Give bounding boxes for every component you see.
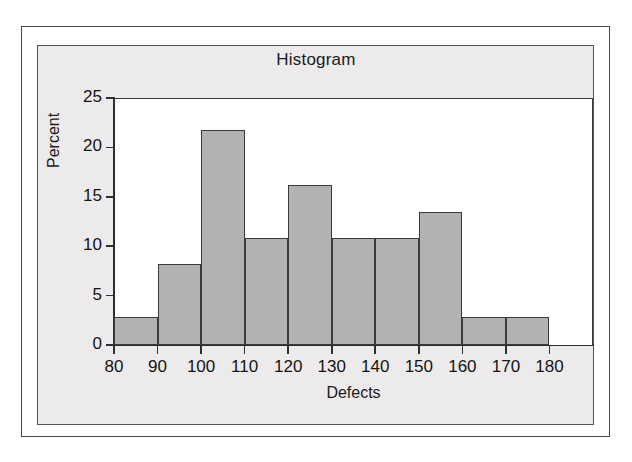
histogram-bar bbox=[332, 238, 376, 345]
bar-series bbox=[114, 98, 593, 345]
y-tick-label: 0 bbox=[40, 334, 102, 354]
y-tick-mark bbox=[106, 147, 114, 149]
x-tick-mark bbox=[200, 345, 202, 354]
x-tick-mark bbox=[287, 345, 289, 354]
y-tick-mark bbox=[106, 97, 114, 99]
y-tick-label: 15 bbox=[40, 186, 102, 206]
x-tick-mark bbox=[462, 345, 464, 354]
x-tick-label: 180 bbox=[519, 357, 579, 377]
histogram-bar bbox=[506, 317, 550, 345]
histogram-bar bbox=[419, 212, 463, 345]
x-tick-mark bbox=[157, 345, 159, 354]
histogram-bar bbox=[114, 317, 158, 345]
histogram-bar bbox=[375, 238, 419, 345]
x-tick-mark bbox=[418, 345, 420, 354]
x-tick-mark bbox=[244, 345, 246, 354]
histogram-bar bbox=[462, 317, 506, 345]
histogram-bar bbox=[158, 264, 202, 345]
x-tick-mark bbox=[374, 345, 376, 354]
x-tick-mark bbox=[113, 345, 115, 354]
chart-title: Histogram bbox=[0, 50, 632, 70]
x-tick-mark bbox=[505, 345, 507, 354]
y-tick-label: 25 bbox=[40, 87, 102, 107]
y-tick-label: 5 bbox=[40, 285, 102, 305]
y-tick-mark bbox=[106, 295, 114, 297]
x-tick-mark bbox=[331, 345, 333, 354]
histogram-figure: Histogram 0510152025 8090100110120130140… bbox=[0, 0, 632, 462]
y-tick-mark bbox=[106, 196, 114, 198]
histogram-bar bbox=[245, 238, 289, 345]
x-tick-mark bbox=[549, 345, 551, 354]
y-tick-mark bbox=[106, 245, 114, 247]
y-tick-label: 10 bbox=[40, 235, 102, 255]
histogram-bar bbox=[201, 130, 245, 345]
y-axis-title: Percent bbox=[45, 113, 63, 168]
histogram-bar bbox=[288, 185, 332, 345]
x-axis-title: Defects bbox=[114, 384, 593, 402]
